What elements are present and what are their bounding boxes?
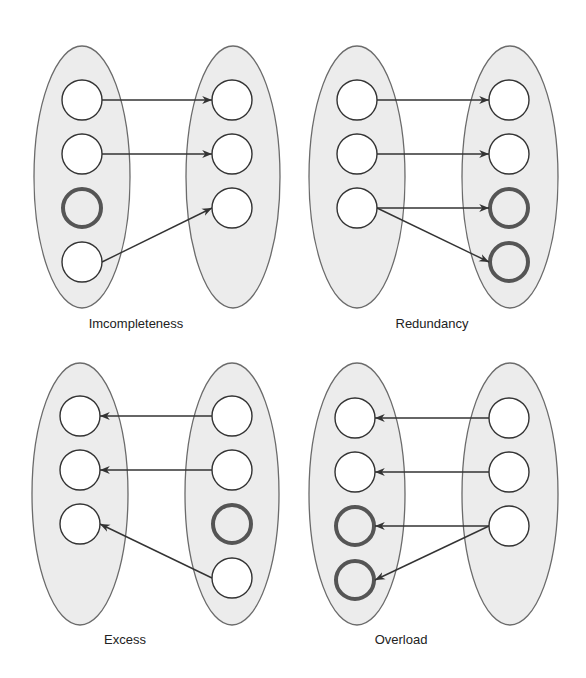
right-node bbox=[212, 450, 252, 490]
left-node bbox=[62, 80, 102, 120]
panel-label-redundancy: Redundancy bbox=[396, 316, 469, 331]
right-node bbox=[212, 396, 252, 436]
left-node bbox=[335, 452, 375, 492]
panel-incompleteness: Imcompleteness bbox=[34, 46, 280, 331]
panel-label-incompleteness: Imcompleteness bbox=[89, 316, 184, 331]
left-node bbox=[337, 188, 377, 228]
right-node bbox=[489, 80, 529, 120]
right-node bbox=[212, 188, 252, 228]
right-node bbox=[212, 80, 252, 120]
panel-overload: Overload bbox=[309, 363, 558, 647]
left-node bbox=[62, 134, 102, 174]
panel-redundancy: Redundancy bbox=[309, 46, 558, 331]
panel-excess: Excess bbox=[32, 363, 279, 647]
right-node bbox=[489, 398, 529, 438]
right-node bbox=[212, 558, 252, 598]
right-node bbox=[489, 506, 529, 546]
left-node bbox=[62, 242, 102, 282]
right-node bbox=[489, 452, 529, 492]
right-node bbox=[212, 134, 252, 174]
mapping-diagram: ImcompletenessRedundancyExcessOverload bbox=[0, 0, 586, 678]
left-node bbox=[337, 134, 377, 174]
left-node bbox=[60, 396, 100, 436]
left-node bbox=[60, 450, 100, 490]
left-node bbox=[337, 80, 377, 120]
panel-label-excess: Excess bbox=[104, 632, 146, 647]
right-node bbox=[489, 134, 529, 174]
left-node bbox=[60, 504, 100, 544]
left-node bbox=[335, 398, 375, 438]
panel-label-overload: Overload bbox=[375, 632, 428, 647]
panels-group: ImcompletenessRedundancyExcessOverload bbox=[32, 46, 558, 647]
